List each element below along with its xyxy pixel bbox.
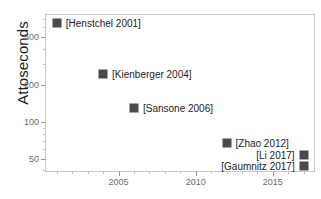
x-tick-label: 2010 xyxy=(186,177,206,187)
x-tick-mark xyxy=(196,171,197,176)
data-point-marker xyxy=(129,104,138,113)
data-point-label: [Sansone 2006] xyxy=(143,103,213,114)
y-tick-minor xyxy=(43,64,46,65)
x-tick-minor xyxy=(57,171,58,174)
y-tick-label: 50 xyxy=(29,154,39,164)
x-tick-minor xyxy=(304,171,305,174)
y-axis-title: Attoseconds xyxy=(12,0,34,128)
x-tick-minor xyxy=(211,171,212,174)
y-tick-minor xyxy=(43,19,46,20)
data-point-marker xyxy=(99,69,108,78)
y-tick-minor xyxy=(43,128,46,129)
data-point-label: [Li 2017] xyxy=(256,150,294,161)
x-tick-minor xyxy=(180,171,181,174)
x-tick-minor xyxy=(103,171,104,174)
y-tick-mark xyxy=(41,37,46,38)
data-point-marker xyxy=(299,151,308,160)
y-tick-minor xyxy=(43,149,46,150)
data-point-marker xyxy=(222,139,231,148)
y-tick-label: 200 xyxy=(24,80,39,90)
data-point-label: [Henstchel 2001] xyxy=(66,18,141,29)
y-tick-minor xyxy=(43,49,46,50)
y-tick-mark xyxy=(41,85,46,86)
x-tick-minor xyxy=(165,171,166,174)
x-tick-label: 2005 xyxy=(108,177,128,187)
data-point-marker xyxy=(299,162,308,171)
y-tick-label: 500 xyxy=(24,32,39,42)
data-point-marker xyxy=(52,19,61,28)
x-tick-minor xyxy=(134,171,135,174)
plot-area: 50100200500 200520102015 [Henstchel 2001… xyxy=(45,14,315,172)
y-tick-minor xyxy=(43,170,46,171)
x-tick-minor xyxy=(88,171,89,174)
y-tick-minor xyxy=(43,141,46,142)
y-tick-mark xyxy=(41,122,46,123)
y-tick-mark xyxy=(41,159,46,160)
y-tick-label: 100 xyxy=(24,117,39,127)
data-point-label: [Kienberger 2004] xyxy=(112,68,192,79)
y-tick-minor xyxy=(43,27,46,28)
x-tick-minor xyxy=(72,171,73,174)
x-tick-label: 2015 xyxy=(263,177,283,187)
y-tick-minor xyxy=(43,134,46,135)
attosecond-pulse-duration-chart: Attoseconds 50100200500 200520102015 [He… xyxy=(0,0,321,199)
data-point-label: [Gaumnitz 2017] xyxy=(221,161,294,172)
x-tick-mark xyxy=(119,171,120,176)
x-tick-minor xyxy=(149,171,150,174)
data-point-label: [Zhao 2012] xyxy=(236,138,289,149)
